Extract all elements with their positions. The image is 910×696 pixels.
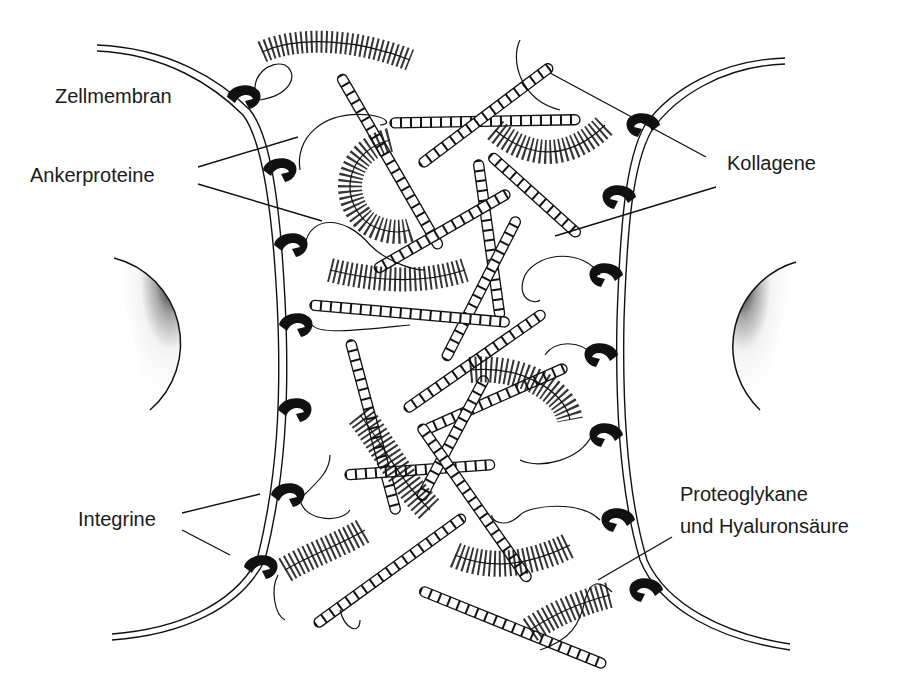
extracellular-matrix-diagram: Zellmembran Ankerproteine Kollagene Inte… [0, 0, 910, 696]
label-proteoglykane: Proteoglykane und Hyaluronsäure [680, 482, 849, 538]
label-integrine: Integrine [78, 507, 156, 531]
cell-membrane-left [97, 45, 287, 640]
label-ankerproteine: Ankerproteine [30, 163, 155, 187]
label-proteoglykane-line1: Proteoglykane [680, 482, 849, 506]
label-zellmembran: Zellmembran [55, 84, 172, 108]
label-kollagene: Kollagene [727, 151, 816, 175]
label-proteoglykane-line2: und Hyaluronsäure [680, 514, 849, 538]
cell-right [733, 262, 796, 410]
cell-left [114, 258, 181, 410]
